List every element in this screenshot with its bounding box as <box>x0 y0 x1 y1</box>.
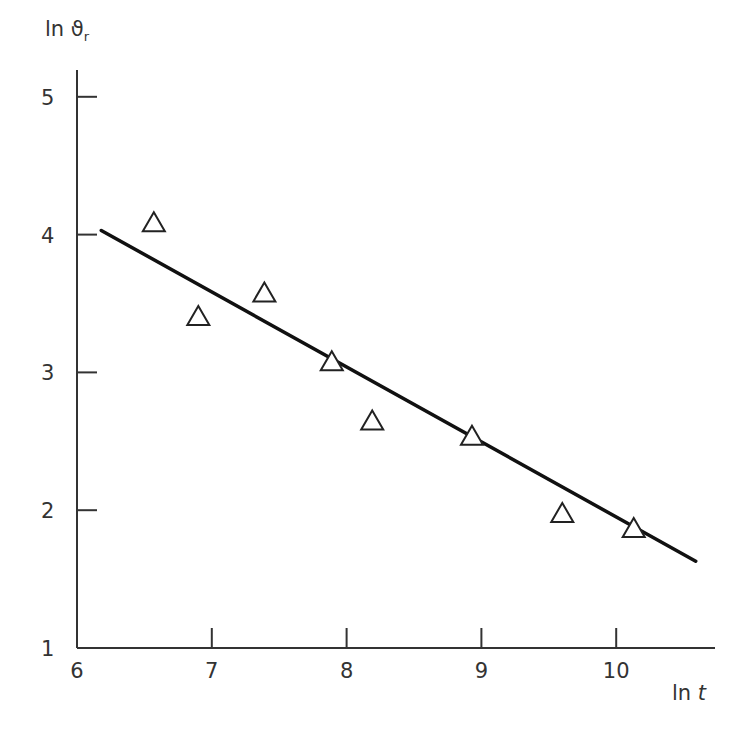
x-tick-label: 6 <box>70 659 83 683</box>
y-axis-title: ln ϑr <box>45 17 90 44</box>
triangle-marker-icon <box>143 212 165 231</box>
y-tick-label: 5 <box>41 86 54 110</box>
x-tick-label: 8 <box>340 659 353 683</box>
x-tick-label: 7 <box>205 659 218 683</box>
x-tick-label: 9 <box>475 659 488 683</box>
y-tick-label: 4 <box>41 224 54 248</box>
triangle-marker-icon <box>187 306 209 325</box>
regression-line <box>101 230 695 561</box>
y-tick-label: 2 <box>41 499 54 523</box>
triangle-marker-icon <box>253 282 275 301</box>
triangle-marker-icon <box>361 411 383 430</box>
x-tick-label: 10 <box>603 659 630 683</box>
tick-labels: 12345678910 <box>41 86 630 683</box>
ticks <box>77 97 616 648</box>
figure-caption <box>0 718 738 733</box>
triangle-marker-icon <box>551 503 573 522</box>
scatter-chart: 12345678910 ln ϑr ln t <box>0 0 738 733</box>
y-axis-title-subscript: r <box>84 29 90 44</box>
data-markers <box>143 212 645 537</box>
axes <box>77 70 715 648</box>
y-tick-label: 1 <box>41 637 54 661</box>
fit-line <box>101 230 695 561</box>
y-tick-label: 3 <box>41 361 54 385</box>
triangle-marker-icon <box>461 426 483 445</box>
x-axis-title: ln t <box>672 681 707 705</box>
